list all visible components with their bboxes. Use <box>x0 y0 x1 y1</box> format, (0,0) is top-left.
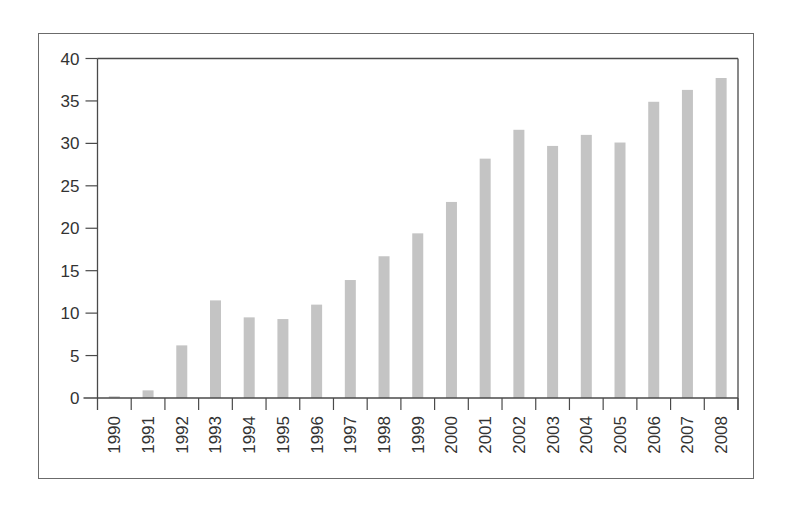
x-tick-label: 1995 <box>274 416 293 454</box>
bar-2003 <box>547 146 558 398</box>
bar-1992 <box>176 345 187 398</box>
y-tick-label: 25 <box>61 177 80 196</box>
y-tick-label: 40 <box>61 50 80 69</box>
x-tick-label: 2007 <box>678 416 697 454</box>
x-tick-label: 1994 <box>240 416 259 454</box>
x-tick-label: 2002 <box>510 416 529 454</box>
x-tick-label: 2008 <box>712 416 731 454</box>
x-tick-label: 2006 <box>645 416 664 454</box>
x-tick-label: 1997 <box>341 416 360 454</box>
x-axis-ticks: 1990199119921993199419951996199719981999… <box>105 398 738 454</box>
bar-2000 <box>446 202 457 398</box>
x-tick-label: 1991 <box>139 416 158 454</box>
bar-1995 <box>277 319 288 398</box>
x-tick-label: 1998 <box>375 416 394 454</box>
y-tick-label: 15 <box>61 262 80 281</box>
x-tick-label: 1999 <box>409 416 428 454</box>
bar-1999 <box>412 233 423 398</box>
bar-2007 <box>682 90 693 398</box>
x-tick-label: 2004 <box>577 416 596 454</box>
y-tick-label: 30 <box>61 134 80 153</box>
bar-1998 <box>379 256 390 398</box>
bar-chart: 0510152025303540 19901991199219931994199… <box>0 0 786 506</box>
x-tick-label: 2001 <box>476 416 495 454</box>
x-tick-label: 2000 <box>442 416 461 454</box>
bar-1994 <box>244 317 255 398</box>
y-tick-label: 10 <box>61 304 80 323</box>
bar-1991 <box>143 390 154 398</box>
y-axis-ticks: 0510152025303540 <box>61 50 98 409</box>
x-tick-label: 1996 <box>308 416 327 454</box>
x-tick-label: 2003 <box>544 416 563 454</box>
bar-2002 <box>513 130 524 398</box>
x-tick-label: 1992 <box>173 416 192 454</box>
bar-1997 <box>345 280 356 398</box>
x-tick-label: 1993 <box>206 416 225 454</box>
bar-1993 <box>210 300 221 398</box>
bar-2004 <box>581 135 592 398</box>
y-tick-label: 0 <box>70 389 79 408</box>
bar-2008 <box>716 78 727 398</box>
x-tick-label: 1990 <box>105 416 124 454</box>
bar-2005 <box>615 143 626 398</box>
bar-1996 <box>311 305 322 398</box>
x-tick-label: 2005 <box>611 416 630 454</box>
bar-2006 <box>648 102 659 398</box>
bars-group <box>109 78 727 398</box>
bar-2001 <box>480 159 491 398</box>
y-tick-label: 20 <box>61 219 80 238</box>
y-tick-label: 35 <box>61 92 80 111</box>
y-tick-label: 5 <box>70 347 79 366</box>
